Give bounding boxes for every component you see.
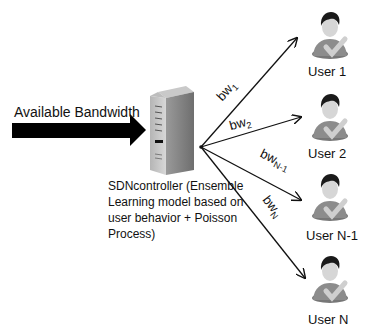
user-check-icon [310,254,350,304]
user-2-label: User 2 [308,146,346,161]
user-n-1-label: User N-1 [306,228,358,243]
available-bandwidth-label: Available Bandwidth [14,104,140,120]
user-n-label: User N [308,312,348,327]
user-1-label: User 1 [308,64,346,79]
user-check-icon [310,10,350,60]
controller-label: SDNcontroller (Ensemble Learning model b… [108,178,268,242]
controller-label-line: Process) [108,226,268,242]
controller-label-line: SDNcontroller (Ensemble [108,178,268,194]
controller-label-line: user behavior + Poisson [108,210,268,226]
user-check-icon [310,92,350,142]
server-tower-icon [150,86,194,175]
controller-label-line: Learning model based on [108,194,268,210]
fanout-point [199,145,203,149]
user-check-icon [310,172,350,222]
bandwidth-allocation-diagram: Available Bandwidth SDNcontroller (Ensem… [0,0,369,334]
